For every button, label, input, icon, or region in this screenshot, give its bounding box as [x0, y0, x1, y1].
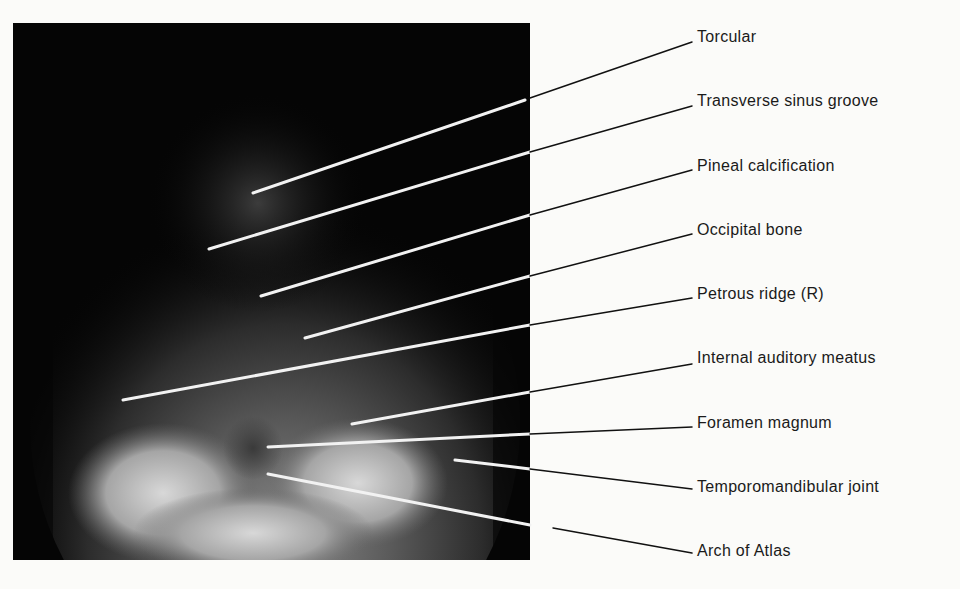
- label-foramen-magnum: Foramen magnum: [697, 414, 832, 432]
- skull-xray-image: [13, 23, 530, 560]
- label-occipital-bone: Occipital bone: [697, 221, 803, 239]
- label-petrous-ridge-right: Petrous ridge (R): [697, 285, 824, 303]
- label-temporomandibular-joint: Temporomandibular joint: [697, 478, 879, 496]
- label-torcular: Torcular: [697, 28, 756, 46]
- label-transverse-sinus-groove: Transverse sinus groove: [697, 92, 879, 110]
- label-pineal-calcification: Pineal calcification: [697, 157, 835, 175]
- label-internal-auditory-meatus: Internal auditory meatus: [697, 349, 876, 367]
- pointer-lines-on-paper: [530, 42, 692, 553]
- xray-rendering: [13, 23, 530, 560]
- annotated-skull-radiograph: Torcular Transverse sinus groove Pineal …: [0, 0, 960, 589]
- label-arch-of-atlas: Arch of Atlas: [697, 542, 791, 560]
